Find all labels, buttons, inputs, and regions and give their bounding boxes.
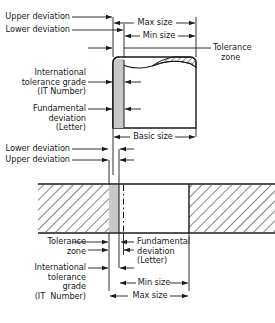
label-hole-max-size: Max size — [129, 291, 171, 301]
tolerance-diagram: Upper deviation Lower deviation Internat… — [0, 0, 275, 323]
label-basic-size: Basic size — [131, 132, 175, 142]
label-hole-lower-deviation: Lower deviation — [0, 144, 70, 154]
label-hole-tolerance-zone-line2: zone — [0, 247, 86, 257]
label-shaft-min-size: Min size — [141, 31, 177, 41]
label-shaft-upper-deviation: Upper deviation — [0, 12, 70, 22]
label-shaft-max-size: Max size — [135, 18, 175, 28]
label-hole-fundamental-deviation-line3: (Letter) — [137, 256, 227, 266]
label-hole-min-size: Min size — [136, 278, 172, 288]
label-shaft-fundamental-deviation-line3: (Letter) — [0, 123, 86, 133]
hole-extension-lines — [109, 149, 189, 291]
label-shaft-tolerance-zone-line2: zone — [221, 53, 275, 63]
label-shaft-lower-deviation: Lower deviation — [0, 25, 70, 35]
shaft-body — [113, 57, 196, 128]
hole-body — [38, 184, 275, 233]
label-shaft-it-grade-line3: (IT Number) — [0, 87, 86, 97]
label-hole-it-grade-line4: (IT Number) — [0, 292, 86, 302]
label-hole-upper-deviation: Upper deviation — [0, 155, 70, 165]
